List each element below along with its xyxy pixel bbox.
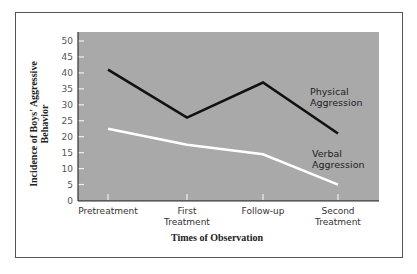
series-label: Aggression	[312, 159, 364, 170]
x-category-label: Follow-up	[242, 206, 285, 216]
y-tick-label: 25	[62, 116, 73, 126]
y-tick-label: 40	[62, 68, 74, 78]
y-tick-label: 10	[62, 164, 74, 174]
y-tick-label: 50	[62, 36, 74, 46]
line-chart: 05101520253035404550 PhysicalAggressionV…	[0, 0, 417, 274]
y-tick-label: 5	[67, 180, 73, 190]
series-label: Verbal	[312, 148, 342, 159]
series-label: Aggression	[310, 97, 362, 108]
x-category-label: First	[178, 206, 197, 216]
y-tick-label: 30	[62, 100, 74, 110]
x-category-label: Treatment	[163, 217, 210, 227]
y-tick-label: 15	[62, 148, 73, 158]
y-tick-label: 45	[62, 52, 73, 62]
plot-area	[78, 32, 379, 201]
y-tick-label: 0	[67, 196, 73, 206]
x-category-label: Treatment	[314, 217, 361, 227]
series-label: Physical	[310, 86, 349, 97]
y-tick-label: 20	[62, 132, 74, 142]
x-category-label: Pretreatment	[78, 206, 138, 216]
y-tick-label: 35	[62, 84, 73, 94]
x-category-label: Second	[321, 206, 354, 216]
x-axis-title: Times of Observation	[171, 232, 263, 243]
